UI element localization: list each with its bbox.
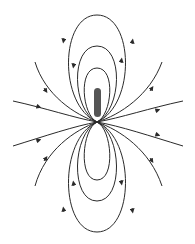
magnetic-field-diagram: [0, 0, 195, 244]
field-loop-bottom-inner: [84, 122, 110, 180]
bottom-field-loops: [64, 122, 133, 232]
side-field-lines: [13, 62, 183, 186]
field-loop-bottom-mid: [77, 122, 116, 201]
conductor-rod: [94, 88, 101, 117]
field-loop-bottom-outer: [68, 122, 125, 232]
